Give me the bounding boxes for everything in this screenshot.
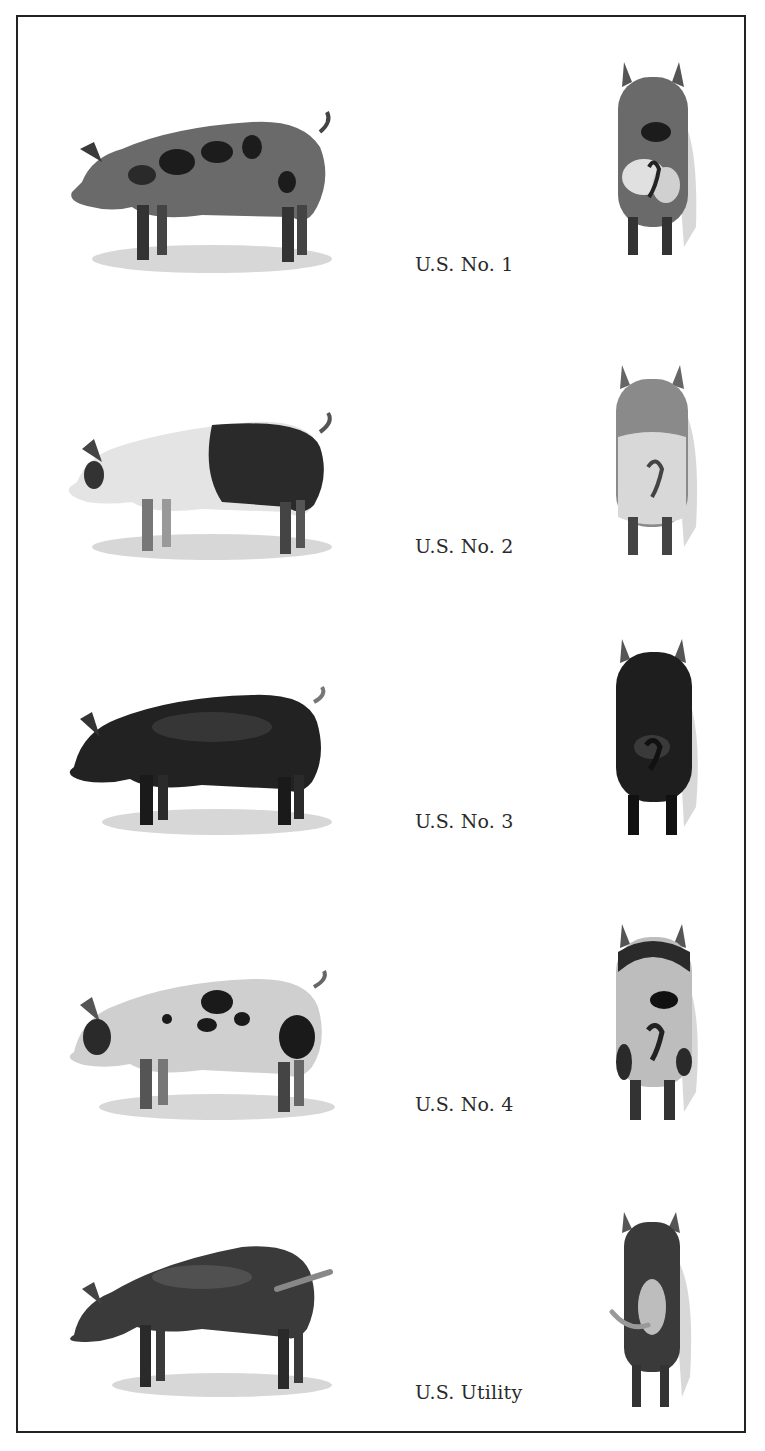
grade-label: U.S. No. 1	[415, 253, 514, 275]
grade-chart-frame: U.S. No. 1	[16, 15, 746, 1433]
thin-pig-rear-icon	[604, 1197, 714, 1417]
spotted-muscular-pig-side-icon	[52, 87, 352, 287]
thin-dark-pig-side-icon	[52, 1217, 352, 1417]
spotted-fat-pig-side-icon	[52, 937, 352, 1137]
grade-label: U.S. No. 3	[415, 810, 514, 832]
spotted-fat-pig-rear-icon	[604, 912, 714, 1132]
spotted-pig-rear-icon	[604, 47, 714, 267]
black-pig-rear-icon	[604, 627, 714, 847]
grade-label: U.S. No. 4	[415, 1093, 514, 1115]
belted-pig-side-icon	[52, 377, 352, 577]
belted-pig-rear-icon	[604, 347, 714, 567]
black-fat-pig-side-icon	[52, 657, 352, 857]
grade-label: U.S. Utility	[415, 1381, 522, 1403]
grade-label: U.S. No. 2	[415, 535, 514, 557]
